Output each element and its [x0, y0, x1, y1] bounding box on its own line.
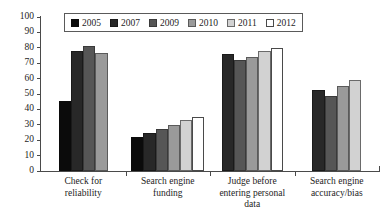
legend-swatch-icon [227, 19, 235, 27]
category-label-line: Judge before [210, 176, 295, 188]
category-label-line: Check for [41, 176, 126, 188]
y-axis-tick: 90 [0, 27, 41, 37]
y-axis-tick-label: 80 [25, 42, 35, 52]
bar-group [41, 17, 379, 171]
category-label: Judge beforeentering personaldata [210, 176, 295, 211]
category-label-line: accuracy/bias [295, 188, 380, 200]
y-axis-tick: 50 [0, 89, 41, 99]
legend-swatch-icon [266, 19, 274, 27]
category-label-line: entering personal [210, 188, 295, 200]
legend-label: 2011 [238, 18, 257, 28]
category-label-line: funding [126, 188, 211, 200]
y-axis-tick: 40 [0, 104, 41, 114]
y-axis-tick: 70 [0, 58, 41, 68]
y-axis-tick-label: 30 [25, 119, 35, 129]
chart-legend: 200520072009201020112012 [64, 13, 303, 32]
bar-chart: 1009080706050403020100 Check forreliabil… [0, 0, 389, 215]
category-label: Check forreliability [41, 176, 126, 199]
category-label-line: Search engine [126, 176, 211, 188]
y-axis-tick-label: 60 [25, 73, 35, 83]
y-axis-tick-label: 0 [29, 165, 34, 175]
y-axis-tick-label: 10 [25, 150, 35, 160]
legend-label: 2005 [82, 18, 101, 28]
category-label-line: Search engine [295, 176, 380, 188]
bar-2009-4 [325, 96, 337, 171]
category-label-line: reliability [41, 188, 126, 200]
y-axis-tick: 10 [0, 151, 41, 161]
legend-label: 2009 [160, 18, 179, 28]
bar-2010-4 [337, 86, 349, 171]
y-axis-tick: 80 [0, 43, 41, 53]
legend-label: 2010 [199, 18, 218, 28]
legend-label: 2007 [121, 18, 140, 28]
y-axis-tick: 100 [0, 12, 41, 22]
category-label: Search enginefunding [126, 176, 211, 199]
y-axis-tick: 30 [0, 120, 41, 130]
legend-swatch-icon [188, 19, 196, 27]
legend-item-2007[interactable]: 2007 [110, 18, 140, 28]
y-axis-tick-label: 70 [25, 57, 35, 67]
y-axis-tick-label: 20 [25, 134, 35, 144]
legend-item-2012[interactable]: 2012 [266, 18, 296, 28]
legend-label: 2012 [277, 18, 296, 28]
bar-2007-4 [312, 90, 324, 171]
y-axis-tick-label: 100 [20, 11, 34, 21]
y-axis-tick: 20 [0, 135, 41, 145]
legend-swatch-icon [71, 19, 79, 27]
y-axis-tick-label: 50 [25, 88, 35, 98]
legend-item-2010[interactable]: 2010 [188, 18, 218, 28]
y-axis-tick: 60 [0, 74, 41, 84]
y-axis-tick-label: 90 [25, 26, 35, 36]
y-axis-tick-label: 40 [25, 103, 35, 113]
bar-2011-4 [349, 80, 361, 171]
category-label: Search engineaccuracy/bias [295, 176, 380, 199]
plot-area [41, 17, 380, 171]
legend-item-2005[interactable]: 2005 [71, 18, 101, 28]
legend-item-2009[interactable]: 2009 [149, 18, 179, 28]
y-axis-tick: 0 [0, 166, 41, 176]
category-label-line: data [210, 199, 295, 211]
legend-swatch-icon [149, 19, 157, 27]
legend-swatch-icon [110, 19, 118, 27]
legend-item-2011[interactable]: 2011 [227, 18, 257, 28]
